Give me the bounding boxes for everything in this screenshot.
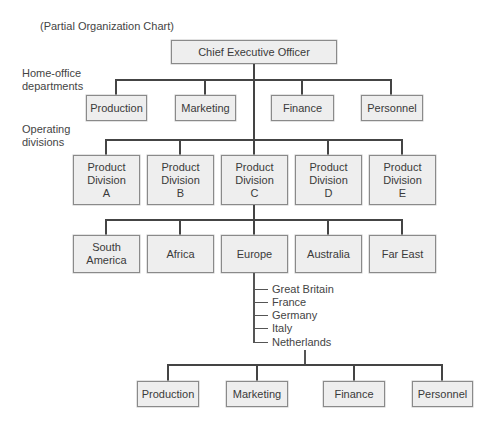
region-box-africa: Africa xyxy=(147,235,214,273)
dept-label: Finance xyxy=(283,102,322,115)
dept-label: Personnel xyxy=(367,102,417,115)
division-box-a: Product Division A xyxy=(73,155,140,205)
country-tick xyxy=(254,302,268,303)
division-box-c: Product Division C xyxy=(221,155,288,205)
connector-drop xyxy=(105,219,107,235)
ceo-box: Chief Executive Officer xyxy=(171,40,337,64)
dept-label: Marketing xyxy=(181,102,229,115)
country-tick xyxy=(254,342,268,343)
country-tick xyxy=(254,328,268,329)
dept-box-marketing: Marketing xyxy=(175,95,236,121)
country-netherlands: Netherlands xyxy=(272,336,331,348)
country-great-britain: Great Britain xyxy=(272,283,334,295)
dept-box-personnel: Personnel xyxy=(361,95,423,121)
connector-drop xyxy=(179,139,181,155)
country-tick xyxy=(254,315,268,316)
connector-drop xyxy=(327,219,329,235)
division-label: Product Division B xyxy=(161,161,200,200)
connector-drop xyxy=(390,79,392,95)
connector-drop xyxy=(401,219,403,235)
connector-drop xyxy=(441,364,443,381)
connector-drop xyxy=(179,219,181,235)
region-label: South America xyxy=(86,241,126,267)
ceo-label: Chief Executive Officer xyxy=(198,46,310,59)
connector-drop xyxy=(327,139,329,155)
country-dept-box-finance: Finance xyxy=(323,381,385,407)
dept-label: Marketing xyxy=(233,388,281,401)
region-label: Africa xyxy=(166,248,194,261)
division-c-drop xyxy=(253,205,255,220)
region-box-south-america: South America xyxy=(73,235,140,273)
dept-label: Production xyxy=(142,388,195,401)
connector-drop xyxy=(256,364,258,381)
dept-box-production: Production xyxy=(86,95,147,121)
region-label: Europe xyxy=(237,248,272,261)
connector-drop xyxy=(253,219,255,235)
netherlands-drop xyxy=(304,350,306,365)
region-box-australia: Australia xyxy=(295,235,362,273)
chart-subtitle: (Partial Organization Chart) xyxy=(40,20,174,33)
country-depts-connector xyxy=(167,364,443,366)
country-tick xyxy=(254,289,268,290)
dept-label: Finance xyxy=(334,388,373,401)
division-label: Product Division E xyxy=(383,161,422,200)
home-office-label: Home-office departments xyxy=(22,67,83,93)
region-label: Far East xyxy=(382,248,424,261)
region-box-europe: Europe xyxy=(221,235,288,273)
division-label: Product Division A xyxy=(87,161,126,200)
home-office-connector xyxy=(115,79,392,81)
divisions-connector xyxy=(105,139,403,141)
region-box-far-east: Far East xyxy=(369,235,436,273)
operating-divisions-label: Operating divisions xyxy=(22,123,70,149)
country-dept-box-marketing: Marketing xyxy=(226,381,288,407)
connector-drop xyxy=(105,139,107,155)
country-germany: Germany xyxy=(272,309,317,321)
connector-drop xyxy=(204,79,206,95)
dept-label: Personnel xyxy=(418,388,468,401)
country-dept-box-personnel: Personnel xyxy=(412,381,473,407)
division-label: Product Division C xyxy=(235,161,274,200)
europe-country-line xyxy=(253,273,255,343)
division-label: Product Division D xyxy=(309,161,348,200)
country-dept-box-production: Production xyxy=(137,381,199,407)
connector-drop xyxy=(167,364,169,381)
division-box-d: Product Division D xyxy=(295,155,362,205)
connector-drop xyxy=(401,139,403,155)
region-label: Australia xyxy=(307,248,350,261)
division-box-e: Product Division E xyxy=(369,155,436,205)
dept-box-finance: Finance xyxy=(271,95,334,121)
division-box-b: Product Division B xyxy=(147,155,214,205)
connector-drop xyxy=(353,364,355,381)
connector-drop xyxy=(115,79,117,95)
connector-drop xyxy=(301,79,303,95)
dept-label: Production xyxy=(90,102,143,115)
country-france: France xyxy=(272,296,306,308)
country-italy: Italy xyxy=(272,322,292,334)
